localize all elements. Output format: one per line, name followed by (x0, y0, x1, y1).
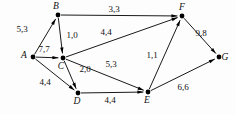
graph-edge (58, 18, 63, 53)
graph-node: G (217, 52, 229, 62)
graph-node: B (53, 1, 60, 17)
edge-weight-label: 3,3 (108, 4, 120, 14)
graph-canvas: ABCDEFG 5,37,74,41,03,34,42,05,34,41,16,… (0, 0, 236, 114)
node-dot (31, 55, 36, 60)
node-label: A (20, 50, 27, 60)
edge-weight-label: 9,8 (195, 28, 207, 38)
node-label: G (222, 52, 229, 62)
edge-weight-label: 4,4 (39, 77, 51, 87)
arrowhead-icon (171, 14, 177, 17)
graph-node: D (73, 91, 81, 106)
node-dot (56, 13, 61, 18)
edge-weight-label: 5,3 (16, 24, 28, 34)
edge-weight-label: 7,7 (38, 44, 50, 54)
graph-diagram: ABCDEFG 5,37,74,41,03,34,42,05,34,41,16,… (0, 0, 236, 114)
graph-node: E (143, 90, 150, 105)
graph-edge (66, 18, 178, 57)
node-dot (146, 90, 151, 95)
edge-labels-layer: 5,37,74,41,03,34,42,05,34,41,16,69,8 (16, 4, 207, 105)
edge-line (61, 15, 177, 16)
edge-weight-label: 6,6 (177, 82, 189, 92)
node-label: D (73, 96, 81, 106)
arrowhead-icon (72, 83, 76, 89)
edge-weight-label: 2,0 (79, 64, 91, 74)
arrowhead-icon (137, 90, 143, 93)
edge-weight-label: 4,4 (104, 95, 116, 105)
arrowhead-icon (176, 20, 180, 26)
node-dot (180, 14, 185, 19)
nodes-layer: ABCDEFG (20, 1, 228, 106)
edge-weight-label: 1,0 (66, 30, 78, 40)
arrowhead-icon (52, 56, 58, 59)
node-label: C (58, 61, 65, 71)
arrowhead-icon (209, 59, 215, 63)
graph-edge (81, 90, 143, 93)
graph-node: F (178, 2, 185, 18)
graph-node: C (58, 56, 66, 71)
node-dot (61, 56, 66, 61)
node-label: B (53, 1, 59, 11)
edge-weight-label: 1,1 (146, 50, 157, 60)
node-dot (76, 91, 81, 96)
arrowhead-icon (171, 18, 177, 22)
graph-edge (61, 14, 177, 17)
arrowhead-icon (60, 47, 63, 53)
arrowhead-icon (138, 86, 144, 90)
edge-line (66, 18, 178, 57)
edges-layer (35, 14, 216, 94)
node-label: E (143, 95, 150, 105)
graph-node: A (20, 50, 35, 60)
arrowhead-icon (51, 19, 56, 25)
edge-line (81, 92, 143, 93)
edge-weight-label: 5,3 (105, 59, 117, 69)
graph-edge (64, 61, 76, 89)
node-label: F (178, 2, 185, 12)
graph-edge (36, 56, 58, 59)
edge-weight-label: 4,4 (100, 27, 112, 37)
